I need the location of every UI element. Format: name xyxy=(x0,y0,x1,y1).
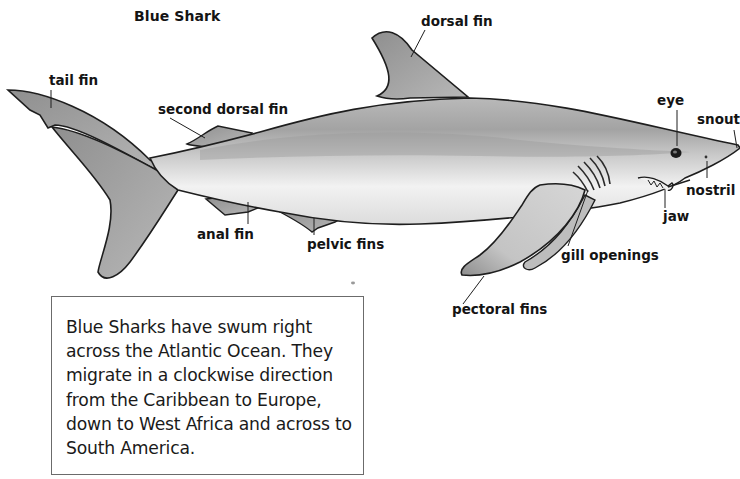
label-dorsal-fin: dorsal fin xyxy=(421,13,493,29)
tail-fin-lower-shape xyxy=(52,127,178,278)
dorsal-fin-shape xyxy=(372,32,468,99)
diagram-title: Blue Shark xyxy=(134,8,221,24)
label-eye: eye xyxy=(657,92,684,108)
label-snout: snout xyxy=(697,111,740,127)
label-nostril: nostril xyxy=(686,182,735,198)
label-jaw: jaw xyxy=(663,208,689,224)
info-box-text: Blue Sharks have swum right across the A… xyxy=(66,315,358,460)
label-gill-openings: gill openings xyxy=(561,247,659,263)
blue-shark-diagram: Blue Shark dorsal fin tail fin second do… xyxy=(0,0,740,479)
info-box: Blue Sharks have swum right across the A… xyxy=(51,296,364,475)
label-pectoral-fins: pectoral fins xyxy=(452,301,547,317)
label-anal-fin: anal fin xyxy=(197,226,254,242)
nostril-shape xyxy=(705,156,708,159)
label-second-dorsal-fin: second dorsal fin xyxy=(158,101,288,117)
label-tail-fin: tail fin xyxy=(49,72,98,88)
label-pelvic-fins: pelvic fins xyxy=(307,236,384,252)
